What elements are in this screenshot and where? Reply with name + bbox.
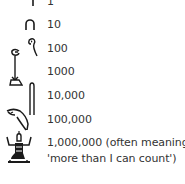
tadpole-icon bbox=[5, 108, 31, 132]
numeral-label-10: 10 bbox=[47, 19, 61, 31]
numeral-label-1: 1 bbox=[47, 0, 54, 8]
lotus-plant-icon bbox=[9, 47, 23, 87]
numeral-label-10000: 10,000 bbox=[47, 90, 85, 102]
heh-god-icon bbox=[5, 131, 33, 163]
numeral-label-100: 100 bbox=[47, 43, 68, 55]
numeral-label-1000: 1000 bbox=[47, 66, 75, 78]
heel-bone-icon bbox=[24, 19, 36, 31]
numeral-label-100000: 100,000 bbox=[47, 114, 92, 126]
stroke-icon bbox=[30, 0, 36, 8]
numeral-label-1000000: 1,000,000 (often meaning bbox=[47, 137, 185, 149]
numeral-label-note: 'more than I can count') bbox=[47, 153, 176, 165]
coil-of-rope-icon bbox=[25, 36, 39, 58]
